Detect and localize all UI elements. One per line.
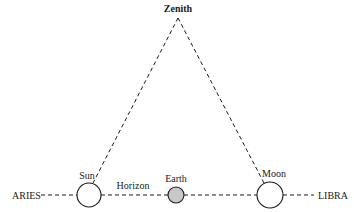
- earth-circle: [168, 187, 184, 203]
- zenith-moon-line: [178, 18, 264, 183]
- aries-label: ARIES: [12, 190, 41, 201]
- libra-label: LIBRA: [318, 190, 349, 201]
- sun-circle: [77, 183, 101, 207]
- earth-label: Earth: [165, 173, 187, 184]
- zenith-sun-line: [93, 18, 178, 183]
- moon-label: Moon: [262, 168, 286, 179]
- zenith-label: Zenith: [164, 3, 193, 14]
- sun-label: Sun: [79, 170, 95, 181]
- zenith-horizon-diagram: Zenith Sun Earth Moon Horizon ARIES LIBR…: [0, 0, 354, 212]
- moon-circle: [257, 182, 283, 208]
- horizon-label: Horizon: [117, 180, 150, 191]
